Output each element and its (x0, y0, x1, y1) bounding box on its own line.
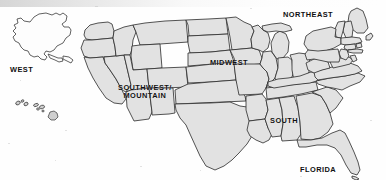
hawaii-island-oahu (23, 102, 28, 107)
state-north-dakota (186, 18, 228, 36)
region-label-south: SOUTH (270, 117, 298, 125)
map-graphic (0, 0, 386, 180)
state-new-york (304, 27, 341, 52)
hawaii-island-maui (39, 105, 45, 110)
state-wyoming (131, 44, 162, 70)
state-oregon (81, 38, 116, 58)
us-regions-map: WEST SOUTHWEST/ MOUNTAIN MIDWEST NORTHEA… (0, 0, 386, 180)
state-vermont (335, 21, 345, 38)
alaska-peninsula-tip (63, 56, 73, 63)
state-michigan-upper (262, 23, 292, 32)
region-label-west: WEST (10, 66, 33, 74)
region-label-florida: FLORIDA (300, 166, 336, 174)
long-island (348, 49, 363, 53)
region-label-southwest-mountain: SOUTHWEST/ MOUNTAIN (118, 84, 172, 101)
region-label-midwest: MIDWEST (210, 59, 248, 67)
florida-keys (352, 176, 359, 180)
alaska-aleutian-tail (48, 54, 63, 62)
state-michigan-lower (271, 31, 289, 59)
hawaii-island-lanai (37, 108, 40, 110)
hawaii-island-kauai (15, 100, 21, 105)
state-arkansas (246, 94, 268, 121)
state-alaska (13, 13, 71, 60)
hawaii-island-big-island (48, 111, 58, 120)
hawaii-island-kahoolawe (42, 110, 44, 112)
hawaii-island-niihau (21, 99, 25, 102)
cape-cod-islands (366, 33, 373, 40)
hawaii-inset (15, 99, 58, 120)
state-rhode-island (356, 43, 362, 48)
region-label-northeast: NORTHEAST (283, 11, 333, 19)
state-pennsylvania (305, 49, 340, 62)
alaska-inset (13, 13, 73, 63)
hawaii-island-molokai (33, 103, 39, 107)
state-south-dakota (188, 34, 230, 53)
state-montana (133, 20, 188, 45)
state-minnesota (226, 17, 254, 50)
region-label-southwest-mountain-line2: MOUNTAIN (118, 92, 172, 100)
state-washington (84, 22, 114, 40)
